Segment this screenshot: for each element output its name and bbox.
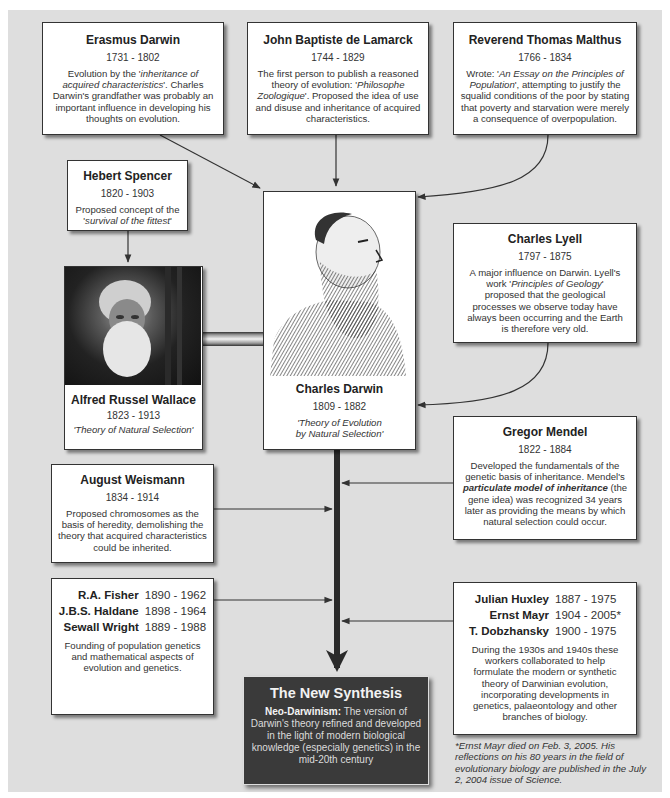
lyell-desc: A major influence on Darwin. Lyell's wor… bbox=[454, 267, 636, 334]
weismann-name: August Weismann bbox=[52, 473, 213, 487]
darwin-name: Charles Darwin bbox=[264, 382, 415, 396]
synthesists-desc: During the 1930s and 1940s these workers… bbox=[454, 644, 636, 722]
arrow-lyell-to-darwin bbox=[418, 343, 548, 405]
malthus-desc: Wrote: 'An Essay on the Principles of Po… bbox=[454, 68, 636, 124]
weismann-desc: Proposed chromosomes as the basis of her… bbox=[52, 508, 213, 553]
ernst-mayr-footnote: *Ernst Mayr died on Feb. 3, 2005. His re… bbox=[455, 740, 655, 786]
geneticists-list: R.A. Fisher1890 - 1962 J.B.S. Haldane189… bbox=[56, 587, 209, 635]
darwin-engraving-icon bbox=[270, 200, 410, 376]
list-item: J.B.S. Haldane1898 - 1964 bbox=[56, 603, 209, 619]
spencer-name: Hebert Spencer bbox=[68, 169, 187, 183]
list-item: R.A. Fisher1890 - 1962 bbox=[56, 587, 209, 603]
erasmus-name: Erasmus Darwin bbox=[43, 33, 223, 47]
mendel-dates: 1822 - 1884 bbox=[454, 444, 636, 455]
lyell-dates: 1797 - 1875 bbox=[454, 251, 636, 262]
list-item: T. Dobzhansky1900 - 1975 bbox=[466, 623, 624, 639]
spencer-box: Hebert Spencer 1820 - 1903 Proposed conc… bbox=[67, 160, 188, 231]
wallace-dates: 1823 - 1913 bbox=[65, 410, 202, 421]
modern-synthesists-box: Julian Huxley1887 - 1975 Ernst Mayr1904 … bbox=[453, 582, 637, 735]
erasmus-dates: 1731 - 1802 bbox=[43, 52, 223, 63]
erasmus-darwin-box: Erasmus Darwin 1731 - 1802 Evolution by … bbox=[42, 22, 224, 135]
mendel-box: Gregor Mendel 1822 - 1884 Developed the … bbox=[453, 416, 637, 540]
lamarck-box: John Baptiste de Lamarck 1744 - 1829 The… bbox=[247, 22, 429, 135]
population-geneticists-box: R.A. Fisher1890 - 1962 J.B.S. Haldane189… bbox=[51, 578, 214, 715]
wallace-theory: 'Theory of Natural Selection' bbox=[65, 424, 202, 435]
wallace-portrait-image bbox=[65, 267, 201, 385]
arrow-malthus-to-darwin bbox=[418, 135, 548, 197]
new-synthesis-box: The New Synthesis Neo-Darwinism: The ver… bbox=[243, 676, 429, 785]
mendel-name: Gregor Mendel bbox=[454, 425, 636, 439]
lyell-name: Charles Lyell bbox=[454, 232, 636, 246]
geneticists-desc: Founding of population genetics and math… bbox=[52, 640, 213, 674]
mendel-desc: Developed the fundamentals of the geneti… bbox=[454, 460, 636, 527]
charles-darwin-box: Charles Darwin 1809 - 1882 'Theory of Ev… bbox=[263, 191, 416, 450]
lamarck-desc: The first person to publish a reasoned t… bbox=[248, 68, 428, 124]
synthesists-list: Julian Huxley1887 - 1975 Ernst Mayr1904 … bbox=[466, 591, 624, 639]
wallace-name: Alfred Russel Wallace bbox=[65, 393, 202, 407]
list-item: Ernst Mayr1904 - 2005* bbox=[466, 607, 624, 623]
malthus-dates: 1766 - 1834 bbox=[454, 52, 636, 63]
new-synthesis-title: The New Synthesis bbox=[244, 685, 428, 701]
weismann-dates: 1834 - 1914 bbox=[52, 492, 213, 503]
new-synthesis-desc: Neo-Darwinism: The version of Darwin's t… bbox=[244, 706, 428, 766]
list-item: Julian Huxley1887 - 1975 bbox=[466, 591, 624, 607]
lyell-box: Charles Lyell 1797 - 1875 A major influe… bbox=[453, 223, 637, 343]
malthus-name: Reverend Thomas Malthus bbox=[454, 33, 636, 47]
spencer-desc: Proposed concept of the 'survival of the… bbox=[68, 204, 187, 226]
malthus-box: Reverend Thomas Malthus 1766 - 1834 Wrot… bbox=[453, 22, 637, 135]
wallace-darwin-link bbox=[202, 332, 264, 346]
wallace-portrait-icon bbox=[65, 267, 201, 385]
list-item: Sewall Wright1889 - 1988 bbox=[56, 619, 209, 635]
darwin-theory: 'Theory of Evolutionby Natural Selection… bbox=[264, 417, 415, 439]
weismann-box: August Weismann 1834 - 1914 Proposed chr… bbox=[51, 464, 214, 563]
erasmus-desc: Evolution by the 'inheritance of acquire… bbox=[43, 68, 223, 124]
lamarck-name: John Baptiste de Lamarck bbox=[248, 33, 428, 47]
darwin-portrait-image bbox=[270, 200, 410, 376]
darwin-dates: 1809 - 1882 bbox=[264, 401, 415, 412]
lamarck-dates: 1744 - 1829 bbox=[248, 52, 428, 63]
spencer-dates: 1820 - 1903 bbox=[68, 188, 187, 199]
wallace-box: Alfred Russel Wallace 1823 - 1913 'Theor… bbox=[64, 266, 203, 450]
